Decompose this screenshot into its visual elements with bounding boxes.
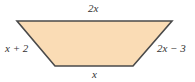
left-side-label: x + 2	[5, 43, 28, 54]
bottom-side-label: x	[92, 69, 97, 80]
trapezoid-polygon	[17, 21, 172, 66]
trapezoid-diagram: 2x x + 2 2x − 3 x	[0, 0, 195, 82]
top-side-label: 2x	[88, 3, 98, 14]
right-side-label: 2x − 3	[157, 43, 186, 54]
